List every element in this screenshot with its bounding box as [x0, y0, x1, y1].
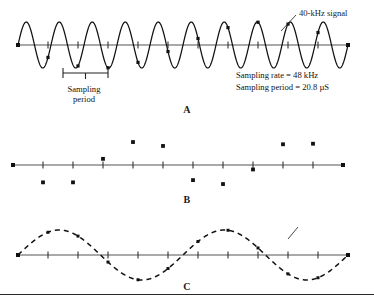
panel-b-sample-dots	[41, 140, 315, 186]
forty-khz-signal-label: 40-kHz signal	[299, 8, 347, 19]
sampling-aliasing-figure: 40-kHz signal Sampling rate = 48 kHz Sam…	[0, 0, 374, 302]
sampling-rate-text: Sampling rate = 48 kHz	[236, 69, 329, 81]
panel-label-a: A	[0, 104, 374, 115]
panel-label-b: B	[0, 194, 374, 205]
forty-khz-waveform	[18, 22, 348, 68]
sampling-period-bracket	[63, 68, 108, 79]
panel-b-axis-start-marker	[11, 163, 15, 167]
panel-c-axis-end-marker	[346, 253, 350, 257]
panel-c-plot	[0, 215, 374, 287]
panel-label-c: C	[0, 281, 374, 292]
panel-b-axis-end-marker	[341, 163, 345, 167]
panel-c-leader-line	[288, 227, 298, 239]
figure-bottom-rule	[0, 294, 374, 295]
sampling-period-bracket-label-line1: Sampling	[49, 84, 119, 94]
sampling-period-bracket-label: Sampling period	[49, 84, 119, 105]
sampling-stats: Sampling rate = 48 kHz Sampling period =…	[236, 69, 329, 94]
panel-c: 8-kHz signal Time	[0, 215, 374, 287]
sampling-period-text: Sampling period = 20.8 µS	[236, 81, 329, 93]
